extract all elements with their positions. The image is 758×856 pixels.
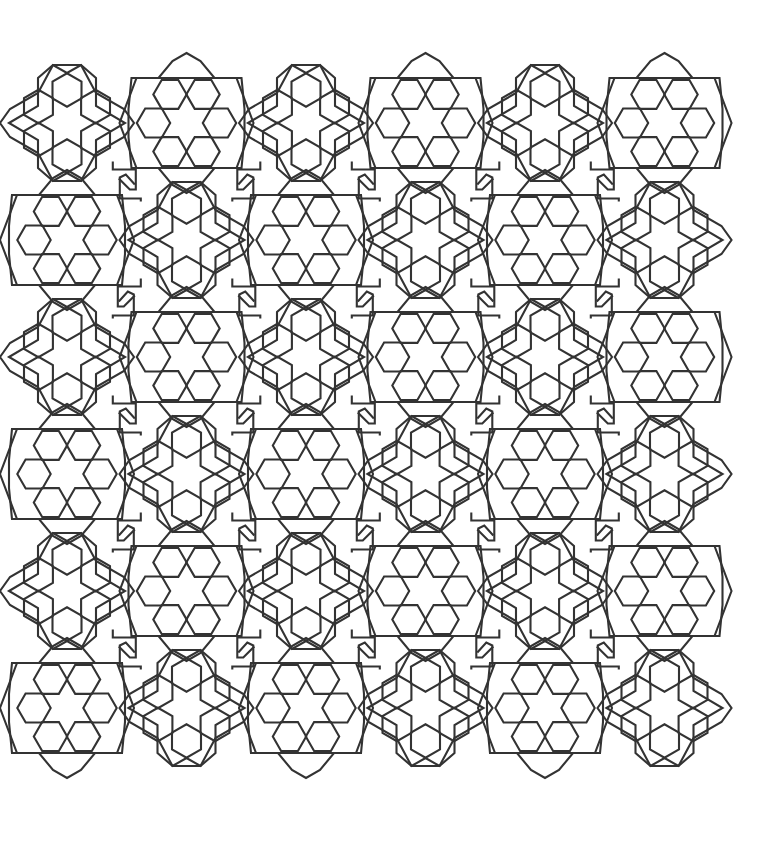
hexagon-outline <box>137 109 170 138</box>
hexagon-outline <box>631 371 664 400</box>
hexagon-outline <box>650 424 679 457</box>
hexagon-outline <box>392 605 425 634</box>
outer-frame <box>9 170 125 310</box>
hexagon-outline <box>531 373 560 406</box>
hexagon-outline <box>83 226 116 255</box>
hexagon-outline <box>425 605 458 634</box>
inner-band <box>598 546 732 636</box>
hexagon-outline <box>545 254 578 283</box>
hexagon-outline <box>273 665 306 694</box>
hook-lower <box>598 409 619 436</box>
hexagon-outline <box>392 314 425 343</box>
hexagon-outline <box>442 343 475 372</box>
outer-frame <box>478 65 612 181</box>
hexagon-outline <box>203 343 236 372</box>
hexagon-outline <box>561 694 594 723</box>
hexagon-outline <box>67 665 100 694</box>
hexagon-outline <box>186 605 219 634</box>
rosette-flat <box>598 53 732 193</box>
hexagon-outline <box>186 80 219 109</box>
hexagon-outline <box>256 226 289 255</box>
hook-lower <box>598 643 619 670</box>
rosette-flat <box>239 638 373 778</box>
hexagon-outline <box>53 307 82 340</box>
inner-band <box>239 429 373 519</box>
hexagon-outline <box>631 605 664 634</box>
hexagon-outline <box>306 665 339 694</box>
hook-lower <box>471 643 492 670</box>
inner-band <box>368 182 484 298</box>
hexagon-outline <box>531 541 560 574</box>
hexagon-outline <box>425 80 458 109</box>
inner-band <box>607 416 723 532</box>
hexagon-outline <box>292 541 321 574</box>
hexagon-outline <box>17 226 50 255</box>
hexagon-outline <box>411 724 440 757</box>
hexagon-outline <box>442 109 475 138</box>
hook-lower <box>352 292 373 319</box>
outer-frame <box>239 65 373 181</box>
hexagon-outline <box>681 343 714 372</box>
inner-band <box>239 663 373 753</box>
hook-lower <box>359 643 380 670</box>
hexagon-outline <box>153 605 186 634</box>
hexagon-outline <box>203 577 236 606</box>
hexagon-outline <box>615 577 648 606</box>
hexagon-outline <box>631 137 664 166</box>
outer-frame <box>0 65 134 181</box>
inner-band <box>239 195 373 285</box>
hexagon-outline <box>306 722 339 751</box>
hexagon-outline <box>137 577 170 606</box>
hook-lower <box>232 175 253 202</box>
inner-band <box>359 546 493 636</box>
rosette-flat <box>239 404 373 544</box>
hexagon-outline <box>650 190 679 223</box>
hexagon-outline <box>172 190 201 223</box>
hexagon-outline <box>153 548 186 577</box>
hexagon-outline <box>53 607 82 640</box>
hexagon-outline <box>631 80 664 109</box>
hexagon-outline <box>153 371 186 400</box>
hexagon-outline <box>531 73 560 106</box>
hexagon-outline <box>392 137 425 166</box>
hexagon-outline <box>203 109 236 138</box>
hexagon-outline <box>34 197 67 226</box>
inner-band <box>0 195 134 285</box>
hexagon-outline <box>376 577 409 606</box>
hexagon-outline <box>411 190 440 223</box>
hook-lower <box>232 643 253 670</box>
hexagon-outline <box>664 371 697 400</box>
inner-band <box>129 650 245 766</box>
hook-lower <box>359 409 380 436</box>
rosette-flat <box>359 287 493 427</box>
hexagon-outline <box>83 694 116 723</box>
hexagon-outline <box>34 254 67 283</box>
outer-frame <box>9 638 125 778</box>
hexagon-outline <box>306 431 339 460</box>
hexagon-outline <box>186 371 219 400</box>
rosette-flat <box>598 521 732 661</box>
hexagon-outline <box>512 488 545 517</box>
inner-band <box>368 416 484 532</box>
hook-lower <box>113 526 134 553</box>
hexagon-outline <box>531 307 560 340</box>
hexagon-outline <box>512 431 545 460</box>
outer-frame <box>248 170 364 310</box>
hexagon-outline <box>442 577 475 606</box>
hexagon-outline <box>322 694 355 723</box>
hexagon-outline <box>376 343 409 372</box>
outer-frame <box>607 287 723 427</box>
hook-lower <box>239 526 260 553</box>
hexagon-outline <box>292 139 321 172</box>
outer-frame <box>487 638 603 778</box>
hexagon-outline <box>153 137 186 166</box>
hexagon-outline <box>664 314 697 343</box>
rosette-flat <box>120 521 254 661</box>
hexagon-outline <box>545 197 578 226</box>
tessellation-canvas <box>0 0 758 856</box>
hexagon-outline <box>172 724 201 757</box>
inner-band <box>607 182 723 298</box>
hexagon-outline <box>495 226 528 255</box>
inner-band <box>120 312 254 402</box>
hook-lower <box>120 175 141 202</box>
